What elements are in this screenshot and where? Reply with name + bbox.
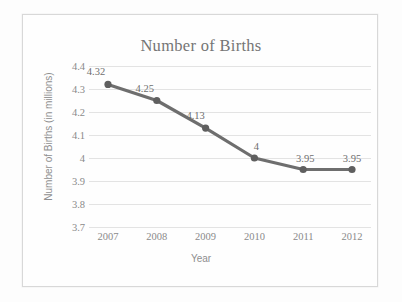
data-point-label: 4.25: [136, 83, 154, 94]
chart-title: Number of Births: [23, 36, 379, 56]
y-axis-tick-label: 3.7: [51, 222, 85, 233]
x-axis-tick-labels: 200720082009201020112012: [89, 231, 371, 249]
data-point-label: 4: [254, 141, 259, 152]
x-axis-title: Year: [23, 253, 379, 264]
x-axis-tick-label: 2008: [146, 231, 167, 242]
chart-frame: Number of Births Number of Births (in mi…: [22, 14, 378, 287]
x-axis-tick-label: 2009: [195, 231, 216, 242]
data-point-marker: [348, 166, 355, 173]
x-axis-tick-label: 2010: [244, 231, 265, 242]
data-point-marker: [251, 154, 258, 161]
data-point-label: 4.13: [186, 110, 204, 121]
data-point-marker: [104, 81, 111, 88]
x-axis-tick-label: 2012: [342, 231, 363, 242]
data-point-marker: [300, 166, 307, 173]
data-point-label: 3.95: [343, 153, 361, 164]
y-axis-tick-label: 4.2: [51, 107, 85, 118]
chart-screenshot: Number of Births Number of Births (in mi…: [0, 0, 402, 302]
y-axis-tick-label: 4: [51, 153, 85, 164]
data-point-label: 3.95: [296, 153, 314, 164]
y-axis-tick-label: 4.4: [51, 61, 85, 72]
data-point-marker: [153, 97, 160, 104]
data-point-label: 4.32: [87, 66, 105, 77]
y-axis-tick-label: 3.9: [51, 176, 85, 187]
y-axis-tick-labels: 4.44.34.24.143.93.83.7: [45, 66, 85, 227]
series-line: [108, 84, 352, 169]
x-axis-tick-label: 2011: [293, 231, 314, 242]
plot-area: 4.324.254.1343.953.95: [89, 66, 371, 227]
data-point-marker: [202, 125, 209, 132]
y-axis-tick-label: 4.3: [51, 84, 85, 95]
y-axis-tick-label: 3.8: [51, 199, 85, 210]
y-axis-tick-label: 4.1: [51, 130, 85, 141]
gridline: [89, 227, 371, 228]
x-axis-tick-label: 2007: [98, 231, 119, 242]
line-series: [89, 66, 371, 227]
